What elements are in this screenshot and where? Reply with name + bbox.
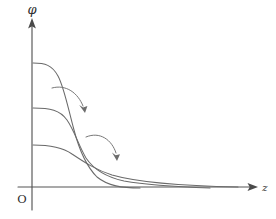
y-axis-label: φ [27,2,37,17]
x-axis-label: z [261,182,268,193]
curved-arrow-lower-head [112,152,120,161]
axes-group [18,18,258,210]
curves-group [33,63,238,188]
plot-canvas: φ z O [0,0,276,219]
figure-container: φ z O [0,0,276,219]
curve-1-high-plateau [33,63,140,188]
curved-arrow-lower-arc [86,135,116,153]
curved-arrow-upper [52,87,87,113]
origin-label: O [17,192,26,206]
curved-arrow-lower [86,135,120,161]
curve-3-low-plateau [33,145,238,187]
